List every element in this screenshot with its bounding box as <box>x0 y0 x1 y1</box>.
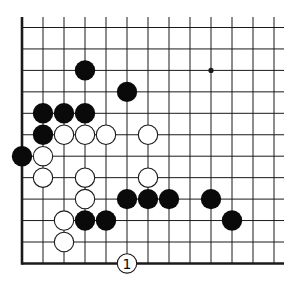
white-stone <box>75 125 94 144</box>
black-stone <box>33 103 53 123</box>
black-stone <box>75 103 95 123</box>
black-stone <box>33 125 53 145</box>
black-stone <box>138 189 158 209</box>
white-stone <box>96 125 115 144</box>
black-stone <box>54 103 74 123</box>
black-stone <box>117 189 137 209</box>
numbered-moves: 1 <box>117 254 136 273</box>
go-board: 1 <box>0 0 299 283</box>
black-stone <box>201 189 221 209</box>
white-stone <box>138 125 157 144</box>
black-stone <box>12 146 32 166</box>
black-stone <box>75 210 95 230</box>
black-stone <box>117 82 137 102</box>
white-stone <box>138 168 157 187</box>
black-stone <box>96 210 116 230</box>
white-stone <box>33 147 52 166</box>
white-stone <box>33 168 52 187</box>
white-stone <box>54 125 73 144</box>
white-stone <box>75 168 94 187</box>
star-point-icon <box>208 68 213 73</box>
white-stone <box>54 232 73 251</box>
black-stone <box>159 189 179 209</box>
black-stone <box>75 60 95 80</box>
white-stone <box>54 211 73 230</box>
star-points <box>208 68 213 73</box>
black-stone <box>222 210 242 230</box>
white-stone <box>75 189 94 208</box>
move-number-label: 1 <box>123 256 132 272</box>
